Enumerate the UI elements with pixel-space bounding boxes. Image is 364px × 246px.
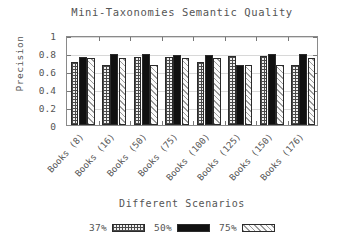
bar-50pct-6	[268, 54, 276, 125]
x-tick-label: Books (16)	[29, 132, 117, 228]
bar-50pct-3	[173, 55, 181, 125]
bars-layer	[67, 37, 317, 125]
legend-label: 50%	[154, 222, 172, 233]
bar-37pct-5	[228, 56, 236, 125]
bar-37pct-2	[134, 57, 142, 125]
bar-50pct-2	[142, 54, 150, 125]
bar-37pct-1	[102, 65, 110, 125]
x-tick-label: Books (8)	[0, 132, 85, 228]
bar-75pct-4	[213, 58, 221, 126]
bar-75pct-1	[119, 58, 127, 126]
plot-area	[66, 36, 318, 126]
bar-37pct-4	[197, 62, 205, 125]
bar-50pct-5	[236, 65, 244, 125]
bar-37pct-6	[260, 56, 268, 125]
legend-swatch	[177, 224, 210, 232]
y-tick-label: 0.6	[39, 67, 56, 78]
bar-75pct-3	[182, 58, 190, 126]
bar-50pct-4	[205, 55, 213, 125]
x-axis-title: Different Scenarios	[0, 198, 364, 209]
bar-75pct-5	[245, 65, 253, 125]
y-tick-label: 0.4	[39, 85, 56, 96]
legend-swatch	[112, 224, 145, 232]
bar-75pct-6	[276, 65, 284, 125]
legend-entry-37pct[interactable]: 37%	[89, 222, 145, 233]
x-tick-label: Books (125)	[155, 132, 243, 228]
bar-75pct-0	[87, 58, 95, 126]
legend-entry-50pct[interactable]: 50%	[154, 222, 210, 233]
bar-75pct-7	[308, 58, 316, 126]
legend-label: 75%	[219, 222, 237, 233]
bar-37pct-0	[71, 62, 79, 125]
x-tick-label: Books (50)	[61, 132, 149, 228]
y-tick-label: 0	[50, 121, 56, 132]
bar-37pct-3	[165, 57, 173, 125]
x-tick-label: Books (150)	[187, 132, 275, 228]
y-tick-label: 1	[50, 31, 56, 42]
bar-50pct-0	[79, 57, 87, 125]
chart-legend: 37%50%75%	[0, 222, 364, 233]
y-tick-label: 0.2	[39, 103, 56, 114]
chart-page: Mini-Taxonomies Semantic Quality Precisi…	[0, 0, 364, 246]
x-tick-label: Books (75)	[92, 132, 180, 228]
legend-swatch	[242, 224, 275, 232]
bar-50pct-1	[110, 54, 118, 125]
y-axis-tick-labels: 00.20.40.60.81	[0, 36, 62, 126]
legend-label: 37%	[89, 222, 107, 233]
x-tick-label: Books (176)	[218, 132, 306, 228]
bar-75pct-2	[150, 65, 158, 125]
bar-37pct-7	[291, 65, 299, 125]
y-tick-label: 0.8	[39, 49, 56, 60]
bar-50pct-7	[299, 54, 307, 125]
chart-title: Mini-Taxonomies Semantic Quality	[0, 6, 364, 18]
legend-entry-75pct[interactable]: 75%	[219, 222, 275, 233]
x-tick-label: Books (100)	[124, 132, 212, 228]
